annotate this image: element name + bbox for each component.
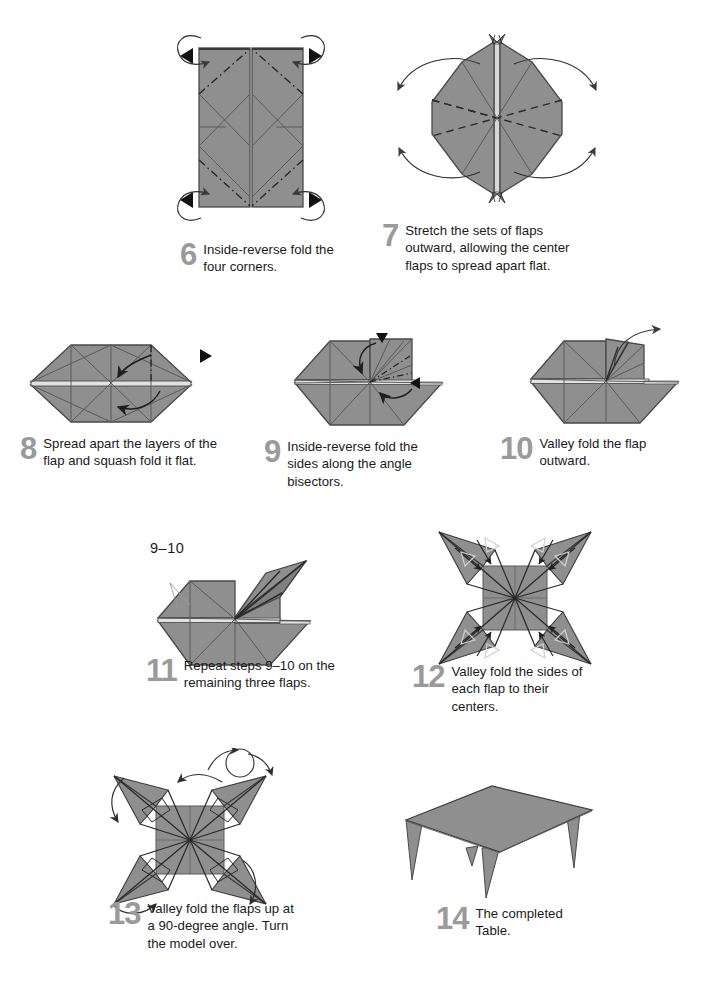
step-13-figure	[100, 748, 365, 918]
step-7-figure	[372, 22, 622, 217]
step-10-text: Valley fold the flap outward.	[539, 435, 665, 470]
step-12-number: 12	[412, 664, 444, 691]
instruction-page: 6 Inside-reverse fold the four corners.	[0, 0, 712, 993]
table-top	[406, 786, 592, 852]
step-8-figure	[8, 325, 248, 435]
step-9-number: 9	[264, 439, 280, 466]
step-8-number: 8	[20, 436, 36, 463]
step-7-text: Stretch the sets of flaps outward, allow…	[405, 222, 587, 274]
step-11: 9–10	[130, 535, 390, 705]
step-10-number: 10	[500, 436, 532, 463]
step-14-number: 14	[436, 906, 468, 933]
step-12-caption: 12 Valley fold the sides of each flap to…	[412, 663, 592, 715]
fold-pointer	[200, 349, 212, 363]
turn-over-icon	[208, 749, 272, 777]
step-13-caption: 13 Valley fold the flaps up at a 90-degr…	[108, 900, 303, 952]
step-14-caption: 14 The completed Table.	[436, 905, 601, 940]
step-13-text: Valley fold the flaps up at a 90-degree …	[147, 900, 303, 952]
step-11-number: 11	[146, 658, 177, 685]
step-8-caption: 8 Spread apart the layers of the flap an…	[20, 435, 235, 470]
step-6-caption: 6 Inside-reverse fold the four corners.	[180, 241, 340, 276]
step-8: 8 Spread apart the layers of the flap an…	[8, 325, 258, 485]
step-7-caption: 7 Stretch the sets of flaps outward, all…	[382, 222, 587, 274]
step-11-text: Repeat steps 9–10 on the remaining three…	[184, 657, 336, 692]
step-12-text: Valley fold the sides of each flap to th…	[451, 663, 592, 715]
step-9-text: Inside-reverse fold the sides along the …	[287, 438, 439, 490]
step-7-number: 7	[382, 223, 398, 250]
step-6-figure	[148, 22, 358, 232]
step-10: 10 Valley fold the flap outward.	[488, 325, 708, 485]
step-14-figure	[400, 780, 690, 905]
step-9: 9 Inside-reverse fold the sides along th…	[252, 325, 487, 500]
step-10-caption: 10 Valley fold the flap outward.	[500, 435, 665, 470]
step-12: 12 Valley fold the sides of each flap to…	[400, 528, 635, 703]
step-9-caption: 9 Inside-reverse fold the sides along th…	[264, 438, 439, 490]
step-14-text: The completed Table.	[475, 905, 601, 940]
step-7: 7 Stretch the sets of flaps outward, all…	[372, 22, 622, 292]
step-13-number: 13	[108, 901, 140, 928]
step-13: 13 Valley fold the flaps up at a 90-degr…	[100, 748, 365, 963]
step-6-number: 6	[180, 242, 196, 269]
step-6: 6 Inside-reverse fold the four corners.	[148, 22, 358, 302]
step-9-figure	[252, 325, 487, 440]
step-8-text: Spread apart the layers of the flap and …	[43, 435, 235, 470]
step-6-text: Inside-reverse fold the four corners.	[203, 241, 340, 276]
step-12-figure	[425, 528, 625, 668]
step-14: 14 The completed Table.	[400, 780, 695, 945]
step-10-figure	[488, 325, 708, 435]
step-11-caption: 11 Repeat steps 9–10 on the remaining th…	[146, 657, 336, 692]
